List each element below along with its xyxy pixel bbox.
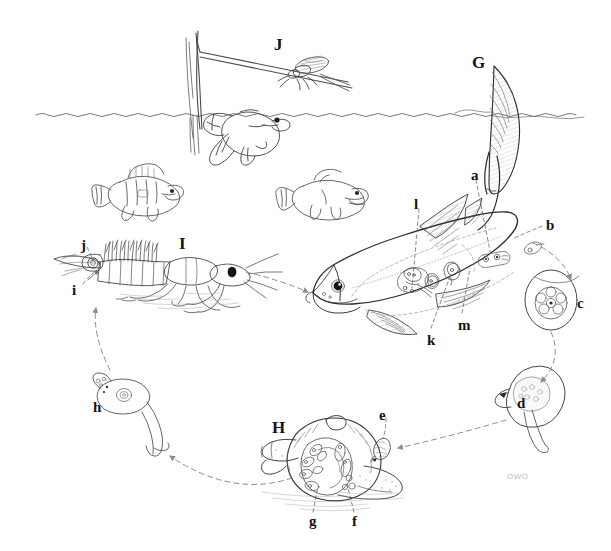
host-label-H: H <box>272 419 285 436</box>
host-label-J: J <box>274 36 283 53</box>
egg <box>525 270 579 330</box>
perch-fish <box>92 164 184 221</box>
host-label-I: I <box>179 235 186 252</box>
stage-label-i: i <box>72 283 76 298</box>
stage-label-j: j <box>81 238 86 253</box>
sporocyst-cluster <box>299 442 329 492</box>
miracidium <box>495 366 565 453</box>
stage-label-c: c <box>577 296 584 311</box>
definitive-host-fish <box>306 66 544 335</box>
stage-label-a: a <box>471 168 479 183</box>
artist-signature: OWO <box>507 472 529 481</box>
life-cycle-figure: G H I J a b c d e f g h i j k l m OWO <box>0 0 611 551</box>
bass-fish <box>276 169 368 220</box>
illustration-artwork <box>0 0 611 551</box>
stage-label-k: k <box>427 333 435 348</box>
stage-label-l: l <box>414 197 418 212</box>
stage-label-m: m <box>458 318 471 333</box>
hooked-fish <box>204 110 291 165</box>
stage-label-e: e <box>379 408 386 423</box>
crayfish <box>54 240 282 313</box>
leader-lines <box>83 180 542 512</box>
cercaria <box>93 373 169 456</box>
stage-label-f: f <box>352 514 357 529</box>
stage-label-d: d <box>517 396 525 411</box>
stage-label-h: h <box>93 400 101 415</box>
stage-label-g: g <box>309 514 317 529</box>
bristle-patch <box>104 240 158 262</box>
host-label-G: G <box>472 54 485 71</box>
stage-label-b: b <box>546 218 554 233</box>
